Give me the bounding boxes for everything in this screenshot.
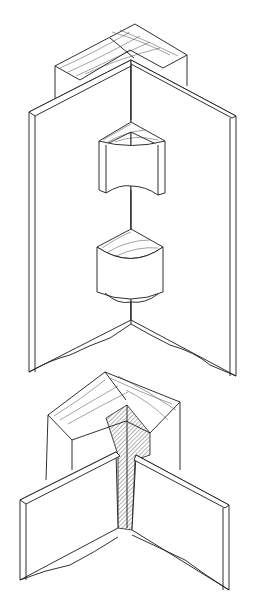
top-corner-assembly	[29, 24, 236, 376]
lower-left-panel	[20, 452, 120, 580]
left-panel	[29, 60, 135, 372]
joinery-illustration	[0, 0, 253, 604]
lower-right-panel	[132, 455, 229, 590]
bottom-corner-assembly	[20, 372, 229, 590]
right-panel	[131, 60, 236, 376]
